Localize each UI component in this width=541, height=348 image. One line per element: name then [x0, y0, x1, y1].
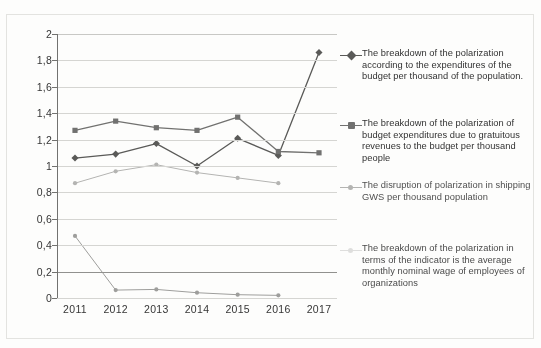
data-point-marker [73, 234, 77, 238]
data-point-marker [71, 155, 78, 162]
data-point-marker [113, 119, 118, 124]
y-axis-tick [52, 87, 57, 88]
gridline [57, 298, 337, 299]
gridline [57, 140, 337, 141]
gridline [57, 192, 337, 193]
y-axis-tick [52, 192, 57, 193]
legend-entry[interactable]: The breakdown of the polarization accord… [340, 48, 536, 83]
legend-label: The breakdown of the polarization of bud… [362, 118, 536, 164]
data-point-marker [195, 171, 199, 175]
data-point-marker [276, 293, 280, 297]
data-point-marker [235, 115, 240, 120]
y-axis-tick [52, 166, 57, 167]
x-axis-tick-label: 2017 [307, 303, 332, 315]
x-axis-tick-label: 2011 [63, 303, 87, 315]
y-axis-tick [52, 298, 57, 299]
gridline [57, 166, 337, 167]
y-axis-tick [52, 140, 57, 141]
y-axis-tick-label: 1,8 [37, 54, 52, 66]
x-axis-tick-label: 2015 [225, 303, 250, 315]
legend-marker-dot-small-icon [340, 245, 362, 257]
y-axis-tick [52, 60, 57, 61]
series-line [75, 52, 319, 166]
x-axis-tick-label: 2013 [144, 303, 169, 315]
gridline [57, 34, 337, 35]
y-axis-tick-label: 0,8 [37, 186, 52, 198]
legend-marker-square-icon [340, 120, 362, 132]
y-axis-tick-label: 0,6 [37, 213, 52, 225]
y-axis-tick-label: 1,6 [37, 81, 52, 93]
y-axis-tick [52, 113, 57, 114]
data-point-marker [73, 181, 77, 185]
y-axis-tick-label: 0,2 [37, 266, 52, 278]
y-axis-labels: 00,20,40,60,811,21,41,61,82 [0, 34, 52, 298]
data-point-marker [72, 128, 77, 133]
series-nominal-wage [73, 234, 281, 298]
gridline [57, 272, 337, 273]
x-axis-tick-label: 2016 [266, 303, 291, 315]
y-axis-tick [52, 272, 57, 273]
data-point-marker [114, 288, 118, 292]
gridline [57, 87, 337, 88]
data-point-marker [154, 125, 159, 130]
legend-marker-dot-small-icon [340, 182, 362, 194]
line-chart: 00,20,40,60,811,21,41,61,82 201120122013… [0, 0, 541, 348]
y-axis-tick [52, 219, 57, 220]
legend-label: The breakdown of the polarization in ter… [362, 243, 536, 289]
data-point-marker [276, 181, 280, 185]
series-gratuitous-revenues [72, 115, 321, 156]
gridline [57, 219, 337, 220]
data-point-marker [154, 287, 158, 291]
y-axis-line [57, 34, 58, 298]
data-point-marker [236, 293, 240, 297]
y-axis-tick [52, 34, 57, 35]
x-axis-tick-label: 2014 [185, 303, 210, 315]
data-point-marker [236, 176, 240, 180]
x-axis-tick-label: 2012 [103, 303, 128, 315]
y-axis-tick-label: 1,4 [37, 107, 52, 119]
series-line [75, 165, 278, 183]
legend-entry[interactable]: The breakdown of the polarization in ter… [340, 243, 536, 289]
data-point-marker [315, 49, 322, 56]
y-axis-tick-label: 1,2 [37, 134, 52, 146]
data-point-marker [194, 128, 199, 133]
gridline [57, 60, 337, 61]
legend-label: The disruption of polarization in shippi… [362, 180, 536, 203]
legend-marker-diamond-icon [340, 50, 362, 62]
y-axis-tick-label: 0,4 [37, 239, 52, 251]
y-axis-tick [52, 245, 57, 246]
data-point-marker [276, 149, 281, 154]
gridline [57, 113, 337, 114]
legend-entry[interactable]: The breakdown of the polarization of bud… [340, 118, 536, 164]
x-axis-labels: 2011201220132014201520162017 [57, 303, 337, 323]
series-line [75, 117, 319, 153]
data-point-marker [114, 169, 118, 173]
data-point-marker [153, 140, 160, 147]
data-point-marker [195, 291, 199, 295]
plot-area [57, 34, 337, 298]
legend-label: The breakdown of the polarization accord… [362, 48, 536, 83]
data-point-marker [112, 151, 119, 158]
data-point-marker [316, 150, 321, 155]
gridline [57, 245, 337, 246]
legend-entry[interactable]: The disruption of polarization in shippi… [340, 180, 536, 203]
